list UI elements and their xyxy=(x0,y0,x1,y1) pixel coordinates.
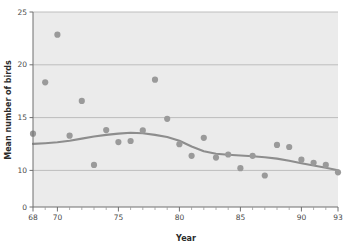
data-point xyxy=(79,98,85,104)
x-tick-label-90: 90 xyxy=(297,213,307,222)
data-point xyxy=(164,116,170,122)
data-point xyxy=(115,139,121,145)
x-tick-label-80: 80 xyxy=(175,213,185,222)
y-axis-title: Mean number of birds xyxy=(4,60,13,160)
data-point xyxy=(213,155,219,161)
y-tick-label-20: 20 xyxy=(17,60,27,69)
chart-screenshot: 25 20 15 10 0 xyxy=(0,0,349,251)
data-point xyxy=(201,135,207,141)
x-axis-title: Year xyxy=(175,234,196,243)
x-tick-label-68: 68 xyxy=(28,213,38,222)
x-tick-label-85: 85 xyxy=(236,213,246,222)
data-point xyxy=(91,162,97,168)
data-point xyxy=(286,144,292,150)
x-tick-label-70: 70 xyxy=(53,213,63,222)
data-point xyxy=(311,160,317,166)
y-tick-label-15: 15 xyxy=(17,113,27,122)
data-point xyxy=(67,133,73,139)
data-point xyxy=(262,172,268,178)
x-tick-label-75: 75 xyxy=(114,213,124,222)
y-tick-label-10: 10 xyxy=(17,166,27,175)
data-point xyxy=(298,157,304,163)
scatter-plot-figure: 25 20 15 10 0 xyxy=(0,0,349,251)
data-point xyxy=(176,141,182,147)
y-tick-label-25: 25 xyxy=(17,8,27,17)
data-point xyxy=(128,138,134,144)
data-point xyxy=(274,142,280,148)
y-tick-label-0: 0 xyxy=(22,203,27,212)
data-point xyxy=(225,151,231,157)
data-point xyxy=(140,127,146,133)
data-point xyxy=(250,153,256,159)
plot-area-background xyxy=(33,12,338,207)
x-tick-label-93: 93 xyxy=(333,213,343,222)
data-point xyxy=(323,162,329,168)
data-point xyxy=(42,79,48,85)
data-point xyxy=(189,153,195,159)
data-point xyxy=(237,165,243,171)
data-point xyxy=(54,32,60,38)
data-point xyxy=(152,77,158,83)
data-point xyxy=(103,127,109,133)
data-point xyxy=(335,169,341,175)
